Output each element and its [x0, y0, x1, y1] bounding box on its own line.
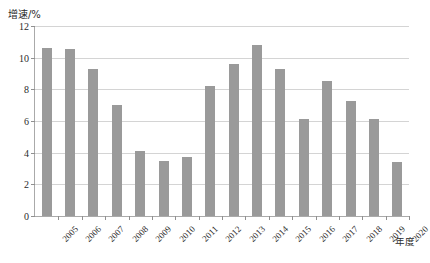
bar [392, 162, 402, 216]
x-axis-tick-label: 2006 [83, 224, 103, 244]
y-axis-tick-label: 10 [19, 52, 29, 63]
x-axis-tick-mark [316, 216, 317, 220]
x-axis-tick-mark [269, 216, 270, 220]
x-axis-tick-mark [339, 216, 340, 220]
y-axis-tick-label: 0 [24, 211, 29, 222]
x-axis-tick-label: 2018 [364, 224, 384, 244]
x-axis-tick-mark [222, 216, 223, 220]
bar [159, 161, 169, 216]
bar [275, 69, 285, 216]
x-axis-tick-mark [292, 216, 293, 220]
bar [88, 69, 98, 216]
bar [322, 81, 332, 216]
y-axis-tick-mark [31, 216, 35, 217]
x-axis-tick-label: 2009 [153, 224, 173, 244]
x-axis-tick-label: 2013 [247, 224, 267, 244]
bar [205, 86, 215, 216]
x-axis-tick-mark [245, 216, 246, 220]
plot-area: 024681012 [34, 26, 409, 217]
x-axis-tick-label: 2012 [224, 224, 244, 244]
bar [182, 157, 192, 216]
y-axis-tick-label: 8 [24, 84, 29, 95]
y-axis-tick-label: 2 [24, 179, 29, 190]
x-axis-title: 年度 [395, 234, 415, 248]
x-axis-tick-mark [105, 216, 106, 220]
x-axis-tick-label: 2016 [317, 224, 337, 244]
x-axis-tick-label: 2010 [177, 224, 197, 244]
x-axis-tick-mark [152, 216, 153, 220]
x-axis-tick-mark [175, 216, 176, 220]
x-axis-tick-mark [58, 216, 59, 220]
bar [135, 151, 145, 216]
x-axis-tick-label: 2015 [294, 224, 314, 244]
bar [299, 119, 309, 216]
x-axis-tick-label: 2017 [340, 224, 360, 244]
bar [229, 64, 239, 216]
bar [42, 48, 52, 216]
x-axis-tick-label: 2007 [107, 224, 127, 244]
x-axis-tick-mark [199, 216, 200, 220]
x-axis-tick-label: 2008 [130, 224, 150, 244]
x-axis-tick-mark [129, 216, 130, 220]
bar [65, 49, 75, 216]
bar [346, 101, 356, 216]
x-axis-tick-mark [386, 216, 387, 220]
x-axis-tick-label: 2005 [60, 224, 80, 244]
x-axis-tick-label: 2011 [200, 224, 220, 244]
x-axis-tick-mark [82, 216, 83, 220]
x-axis-tick-label: 2014 [270, 224, 290, 244]
y-axis-tick-label: 12 [19, 21, 29, 32]
y-axis-title: 增速/% [8, 6, 41, 21]
bars-layer [35, 26, 409, 216]
x-axis-tick-mark [409, 216, 410, 220]
y-axis-tick-label: 6 [24, 116, 29, 127]
bar [112, 105, 122, 216]
x-axis-tick-mark [362, 216, 363, 220]
bar [252, 45, 262, 216]
y-axis-tick-label: 4 [24, 147, 29, 158]
bar [369, 119, 379, 216]
